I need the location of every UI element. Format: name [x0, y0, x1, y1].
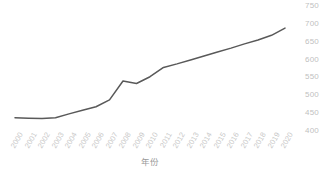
series-line	[10, 6, 290, 131]
x-tick-label: 2011	[158, 131, 173, 149]
y-tick-label: 550	[305, 73, 319, 81]
x-tick-label: 2003	[50, 131, 65, 150]
y-tick-label: 400	[305, 127, 319, 135]
x-tick-label: 2006	[90, 131, 105, 150]
x-tick-label: 2005	[77, 131, 92, 150]
y-axis: 400450500550600650700750	[292, 0, 321, 140]
x-axis-title: 年份	[0, 157, 300, 167]
x-axis: 2000200120022003200420052006200720082009…	[10, 131, 290, 159]
x-tick-label: 2001	[23, 131, 38, 150]
y-tick-label: 600	[305, 56, 319, 64]
x-tick-label: 2013	[185, 131, 200, 150]
x-tick-label: 2008	[117, 131, 132, 150]
x-tick-label: 2014	[198, 131, 213, 150]
y-tick-label: 750	[305, 2, 319, 10]
line-chart: 400450500550600650700750 200020012002200…	[0, 0, 321, 175]
y-tick-label: 450	[305, 109, 319, 117]
x-tick-label: 2009	[131, 131, 146, 150]
x-tick-label: 2012	[171, 131, 186, 150]
x-tick-label: 2015	[212, 131, 227, 150]
series-polyline	[15, 28, 285, 118]
x-tick-label: 2020	[279, 131, 294, 150]
x-tick-label: 2010	[144, 131, 159, 150]
y-tick-label: 650	[305, 38, 319, 46]
x-tick-label: 2019	[266, 131, 281, 150]
x-tick-label: 2018	[252, 131, 267, 150]
y-tick-label: 500	[305, 91, 319, 99]
x-tick-label: 2002	[36, 131, 51, 150]
plot-area	[10, 6, 290, 131]
x-tick-label: 2004	[63, 131, 78, 150]
x-tick-label: 2016	[225, 131, 240, 150]
x-tick-label: 2007	[104, 131, 119, 150]
x-tick-label: 2017	[239, 131, 254, 150]
x-tick-label: 2000	[9, 131, 24, 150]
y-tick-label: 700	[305, 20, 319, 28]
